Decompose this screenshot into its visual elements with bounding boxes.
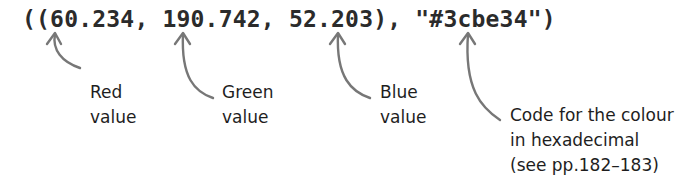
label-green-value: Green value (222, 80, 273, 130)
label-line: in hexadecimal (510, 128, 674, 153)
label-hex-code: Code for the colour in hexadecimal (see … (510, 103, 674, 178)
label-blue-value: Blue value (380, 80, 426, 130)
label-line: (see pp.182–183) (510, 153, 674, 178)
label-line: Red (90, 80, 136, 105)
label-red-value: Red value (90, 80, 136, 130)
arrow-blue-icon (330, 33, 370, 98)
label-line: Code for the colour (510, 103, 674, 128)
label-line: Blue (380, 80, 426, 105)
arrow-green-icon (175, 33, 213, 98)
label-line: Green (222, 80, 273, 105)
label-line: value (222, 105, 273, 130)
arrow-hex-icon (460, 33, 500, 120)
code-line: ((60.234, 190.742, 52.203), "#3cbe34") (22, 6, 556, 32)
label-line: value (90, 105, 136, 130)
arrow-red-icon (47, 33, 80, 68)
label-line: value (380, 105, 426, 130)
